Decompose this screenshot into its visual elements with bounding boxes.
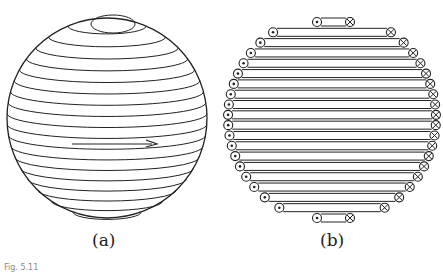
dot-icon	[228, 134, 231, 137]
panel-a-label: (a)	[92, 230, 115, 250]
dot-icon	[239, 165, 242, 168]
dot-icon	[259, 41, 262, 44]
dot-icon	[234, 155, 237, 158]
dot-icon	[253, 186, 256, 189]
dot-icon	[230, 144, 233, 147]
coil-turn	[26, 59, 187, 71]
coil-turn	[19, 70, 194, 83]
dot-icon	[227, 124, 230, 127]
dot-icon	[228, 103, 231, 106]
sphere-outline	[7, 18, 207, 218]
dot-icon	[227, 114, 230, 117]
coil-turn	[7, 124, 207, 138]
coil-turn	[48, 37, 165, 47]
dot-icon	[237, 72, 240, 75]
dot-icon	[242, 62, 245, 65]
coil-turn	[51, 201, 162, 211]
coil-turn	[8, 103, 206, 117]
figure-caption: Fig. 5.11	[4, 263, 38, 272]
panel-b-label: (b)	[320, 230, 344, 250]
coil-turn	[11, 146, 203, 160]
coil-turn	[36, 48, 179, 59]
coil-turn	[38, 190, 177, 201]
dot-icon	[245, 175, 248, 178]
coil-turn	[15, 157, 199, 170]
dot-icon	[232, 83, 235, 86]
coil-turn	[9, 135, 206, 149]
dot-icon	[263, 196, 266, 199]
dot-icon	[316, 217, 319, 220]
dot-icon	[229, 93, 232, 96]
coil-turn	[7, 114, 207, 128]
dot-icon	[316, 21, 319, 24]
figure-canvas	[0, 0, 443, 273]
dot-icon	[250, 52, 253, 55]
dot-icon	[278, 206, 281, 209]
dot-icon	[272, 31, 275, 34]
